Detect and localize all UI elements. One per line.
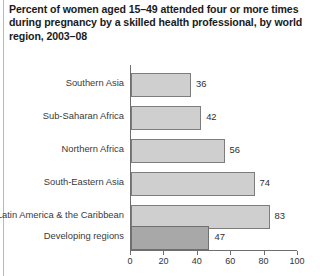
bar — [131, 73, 191, 97]
bar-row: Southern Asia36 — [0, 73, 320, 97]
bar — [131, 106, 201, 130]
bar — [131, 226, 209, 250]
x-axis-tick-label: 100 — [289, 256, 304, 266]
chart-figure: Percent of women aged 15–49 attended fou… — [0, 0, 320, 276]
x-axis-tick — [163, 251, 164, 255]
category-label: Sub-Saharan Africa — [43, 110, 124, 121]
x-axis-tick-label: 80 — [259, 256, 269, 266]
bar-row: Developing regions47 — [0, 226, 320, 250]
bar-value-label: 83 — [275, 210, 285, 221]
bar — [131, 139, 225, 163]
x-axis-tick-label: 0 — [127, 256, 132, 266]
x-axis-tick — [197, 251, 198, 255]
bar-value-label: 56 — [230, 144, 240, 155]
category-label: Latin America & the Caribbean — [0, 209, 124, 220]
plot-area: 020406080100 Southern Asia36Sub-Saharan … — [0, 0, 320, 276]
bar — [131, 172, 255, 196]
x-axis-tick — [130, 251, 131, 255]
bar-value-label: 42 — [206, 111, 216, 122]
x-axis-line — [130, 250, 297, 251]
bar-row: South-Eastern Asia74 — [0, 172, 320, 196]
x-axis-tick-label: 60 — [225, 256, 235, 266]
x-axis-tick-label: 20 — [158, 256, 168, 266]
bar-row: Northern Africa56 — [0, 139, 320, 163]
x-axis-tick — [297, 251, 298, 255]
bar-value-label: 74 — [260, 177, 270, 188]
x-axis-tick-label: 40 — [192, 256, 202, 266]
category-label: Northern Africa — [61, 143, 124, 154]
category-label: Developing regions — [44, 230, 124, 241]
bar-value-label: 36 — [196, 78, 206, 89]
category-label: South-Eastern Asia — [44, 176, 124, 187]
category-label: Southern Asia — [66, 77, 124, 88]
bar-row: Sub-Saharan Africa42 — [0, 106, 320, 130]
x-axis-tick — [264, 251, 265, 255]
x-axis-tick — [230, 251, 231, 255]
bar-value-label: 47 — [214, 231, 224, 242]
